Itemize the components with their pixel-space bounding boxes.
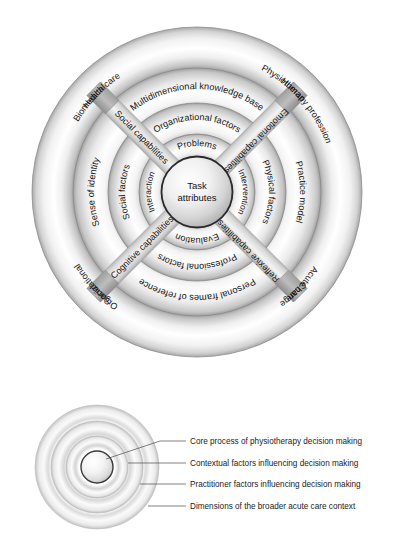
figure-canvas: Task attributes Problems Evaluation Inte… bbox=[0, 0, 394, 549]
legend-diagram bbox=[35, 405, 159, 529]
legend-label-core-process: Core process of physiotherapy decision m… bbox=[190, 437, 362, 446]
legend-label-contextual-factors: Contextual factors influencing decision … bbox=[190, 459, 359, 468]
legend-group: Core process of physiotherapy decision m… bbox=[35, 405, 362, 529]
core-label-line1: Task bbox=[187, 180, 207, 191]
legend-ring-core-process[interactable] bbox=[81, 451, 113, 483]
legend-label-broader-context: Dimensions of the broader acute care con… bbox=[190, 502, 356, 511]
legend-label-practitioner-factors: Practitioner factors influencing decisio… bbox=[190, 480, 361, 489]
main-wheel: Task attributes Problems Evaluation Inte… bbox=[32, 27, 362, 357]
core-label-line2: attributes bbox=[177, 192, 216, 203]
physiotherapy-decision-making-figure: Task attributes Problems Evaluation Inte… bbox=[0, 0, 394, 549]
